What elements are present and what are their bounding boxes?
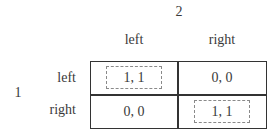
payoff-cell-right-left: 0, 0 [90,95,178,129]
row-player-label: 1 [11,85,25,101]
payoff-cell-left-left: 1, 1 [90,61,178,95]
column-strategy-left: left [90,32,178,48]
column-player-label: 2 [172,4,186,20]
row-strategy-left: left [30,70,76,86]
payoff-cell-right-right: 1, 1 [178,95,266,129]
row-strategy-right: right [30,102,76,118]
column-strategy-right: right [178,32,266,48]
payoff-cell-left-right: 0, 0 [178,61,266,95]
